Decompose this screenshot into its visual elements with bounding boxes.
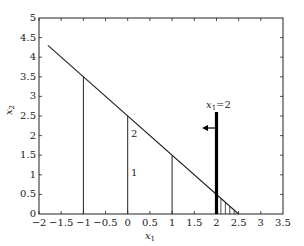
chart: −2 −1.5 −1 −0.5 0 0.5 1 1.5 2 2.5 3 3.5 … (0, 0, 304, 246)
y-tick-label: 2 (30, 130, 36, 141)
x-tick-label: 3.5 (275, 217, 291, 228)
y-ticks (39, 38, 283, 195)
x-tick-label: 1.5 (186, 217, 202, 228)
left-arrow-icon (202, 125, 215, 131)
y-tick-label: 1 (30, 169, 36, 180)
x-tick-labels: −2 −1.5 −1 −0.5 0 0.5 1 1.5 2 2.5 3 3.5 (32, 217, 291, 228)
y-tick-label: 5 (30, 12, 36, 23)
x-ticks (39, 18, 261, 214)
x-tick-label: −1 (76, 217, 91, 228)
y-tick-label: 4.5 (20, 32, 36, 43)
x-tick-label: 3 (258, 217, 264, 228)
y-tick-label: 4 (30, 51, 36, 62)
x-tick-label: −0.5 (93, 217, 117, 228)
constraint-line (48, 45, 239, 214)
constraint-annotation: x1=2 (206, 99, 231, 112)
y-tick-labels: 0 0.5 1 1.5 2 2.5 3 3.5 4 4.5 5 (20, 12, 36, 219)
y-tick-label: 2.5 (20, 110, 36, 121)
y-tick-label: 1.5 (20, 149, 36, 160)
plot-frame (39, 18, 283, 214)
x-axis-label: x1 (145, 230, 155, 243)
x-tick-label: 0.5 (142, 217, 158, 228)
x-tick-label: 2.5 (231, 217, 247, 228)
x-tick-label: 1 (169, 217, 175, 228)
y-axis-label: x2 (3, 105, 16, 115)
segment-label-1: 1 (131, 167, 137, 178)
x-tick-label: 2 (213, 217, 219, 228)
y-tick-label: 3.5 (20, 71, 36, 82)
x-tick-label: −1.5 (49, 217, 73, 228)
y-tick-label: 3 (30, 90, 36, 101)
y-tick-label: 0.5 (20, 188, 36, 199)
y-tick-label: 0 (30, 208, 36, 219)
x-tick-label: 0 (125, 217, 131, 228)
segment-label-2: 2 (131, 128, 137, 139)
